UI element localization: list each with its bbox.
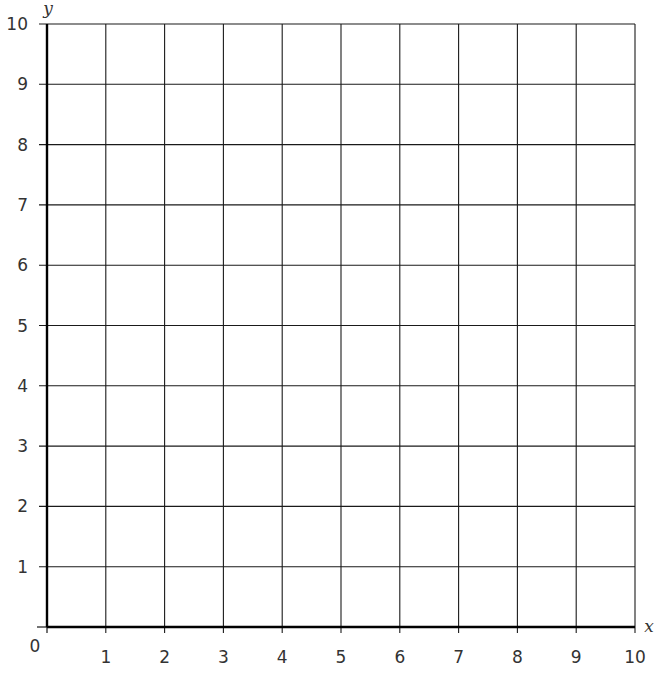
y-tick-label: 6 (17, 255, 28, 275)
y-tick-label: 3 (17, 436, 28, 456)
y-tick-label: 9 (17, 74, 28, 94)
x-tick-label: 4 (277, 647, 288, 667)
x-tick-label: 9 (571, 647, 582, 667)
x-tick-label: 3 (218, 647, 229, 667)
y-tick-labels: 12345678910 (6, 14, 28, 577)
x-tick-label: 10 (624, 647, 646, 667)
x-tick-label: 6 (394, 647, 405, 667)
grid-lines (39, 24, 635, 633)
y-tick-label: 10 (6, 14, 28, 34)
y-tick-label: 5 (17, 316, 28, 336)
x-tick-label: 1 (100, 647, 111, 667)
y-tick-label: 7 (17, 195, 28, 215)
y-tick-label: 4 (17, 376, 28, 396)
y-tick-label: 1 (17, 557, 28, 577)
y-tick-label: 8 (17, 135, 28, 155)
x-tick-label: 8 (512, 647, 523, 667)
x-tick-label: 5 (336, 647, 347, 667)
x-tick-label: 7 (453, 647, 464, 667)
x-axis-label: x (644, 616, 654, 636)
coordinate-grid-chart: 12345678910 12345678910 0 x y (0, 0, 659, 687)
axes (37, 24, 635, 633)
x-tick-labels: 12345678910 (100, 647, 645, 667)
y-axis-label: y (42, 0, 53, 18)
x-tick-label: 2 (159, 647, 170, 667)
origin-label: 0 (30, 636, 41, 656)
y-tick-label: 2 (17, 496, 28, 516)
